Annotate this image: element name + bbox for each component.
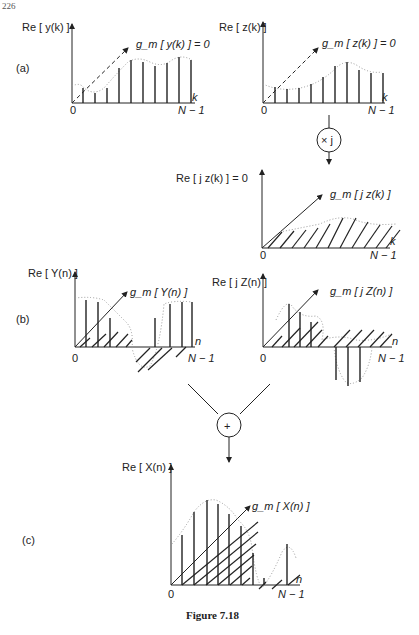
panel-X-n: Re [ X(n) ] (c) g_m [ X(n) ] [22, 461, 310, 600]
x-var-label: k [390, 235, 396, 247]
sum-symbol: + [224, 420, 230, 432]
origin-label: 0 [260, 352, 266, 364]
diag-label: g_m [ j Z(n) ] [330, 285, 393, 297]
panel-label-b: (b) [16, 313, 29, 325]
panel-label-a: (a) [16, 62, 29, 74]
origin-label: 0 [168, 588, 174, 600]
diag-label: g_m [ z(k) ] = 0 [322, 37, 397, 49]
diag-label: g_m [ y(k) ] = 0 [136, 38, 211, 50]
page-number: 226 [2, 1, 16, 11]
sum-node: + [188, 384, 270, 462]
origin-label: 0 [261, 104, 267, 116]
y-axis-label: Re [ z(k) ] [219, 21, 267, 33]
y-axis-label: Re [ j Z(n) ] [212, 276, 267, 288]
origin-label: 0 [72, 352, 78, 364]
panel-label-c: (c) [22, 534, 35, 546]
panel-jz-k: Re [ j z(k) ] = 0 g_m [ j z(k) ] 0 k N −… [176, 170, 400, 261]
x-end-label: N − 1 [278, 588, 305, 600]
multiply-j-symbol: × j [321, 134, 333, 146]
y-axis-label: Re [ y(k) ] [22, 21, 70, 33]
y-axis-label: Re [ Y(n) ] [28, 267, 78, 279]
x-var-label: k [382, 91, 388, 103]
panel-Y-n: Re [ Y(n) ] (b) g_m [ Y(n) ] 0 n [16, 267, 215, 372]
diag-label: g_m [ X(n) ] [252, 500, 310, 512]
diag-label: g_m [ j z(k) ] [330, 188, 391, 200]
panel-jZ-n: Re [ j Z(n) ] g_m [ j Z(n) ] 0 [212, 274, 405, 386]
y-axis-label: Re [ j z(k) ] = 0 [176, 172, 248, 184]
x-end-label: N − 1 [188, 352, 215, 364]
origin-label: 0 [70, 104, 76, 116]
x-var-label: k [192, 91, 198, 103]
panel-y-k: Re [ y(k) ] (a) g_m [ y(k) ] = 0 0 k N −… [16, 21, 211, 116]
multiply-j-node: × j [317, 115, 341, 164]
x-var-label: n [296, 573, 302, 585]
diag-label: g_m [ Y(n) ] [130, 286, 188, 298]
x-end-label: N − 1 [178, 104, 205, 116]
y-axis-label: Re [ X(n) ] [122, 461, 172, 473]
x-end-label: N − 1 [368, 104, 395, 116]
figure-caption: Figure 7.18 [186, 609, 239, 621]
panel-z-k: Re [ z(k) ] g_m [ z(k) ] = 0 0 k N − 1 [219, 21, 397, 116]
x-end-label: N − 1 [370, 249, 397, 261]
origin-label: 0 [260, 249, 266, 261]
x-var-label: n [392, 335, 398, 347]
figure-canvas: 226 Re [ y(k) ] (a) g_m [ y(k) ] = 0 0 k… [0, 0, 419, 635]
x-end-label: N − 1 [378, 352, 405, 364]
x-var-label: n [195, 335, 201, 347]
